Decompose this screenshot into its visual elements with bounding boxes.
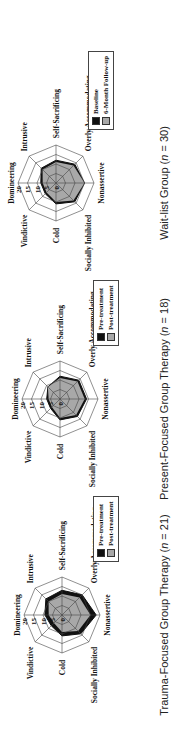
axis-label-self-sacrificing: Self-Sacrificing	[52, 89, 61, 138]
axis-label-cold: Cold	[52, 227, 61, 243]
tick-label: 5	[49, 618, 57, 622]
legend-item-baseline: Baseline	[91, 56, 101, 125]
tick-label: 5	[47, 402, 55, 406]
legend-item-followup: 6-Month Follow-up	[101, 56, 111, 125]
axis-label-intrusive: Intrusive	[24, 337, 33, 367]
caption-n: n	[158, 327, 170, 333]
axis-label-domineering: Domineering	[11, 378, 20, 420]
axis-label-domineering: Domineering	[7, 162, 16, 204]
axis-label-nonassertive: Nonassertive	[97, 162, 106, 204]
tick-label: 0	[53, 186, 61, 190]
axis-label-socially-inhibited: Socially Inhibited	[84, 214, 93, 271]
axis-label-cold: Cold	[56, 443, 65, 459]
panel-wait-list: 05101520DomineeringIntrusiveSelf-Sacrifi…	[0, 58, 190, 308]
tick-label: 5	[43, 186, 51, 190]
axis-label-nonassertive: Nonassertive	[101, 378, 110, 420]
panel-present-focused: 05101520DomineeringIntrusiveSelf-Sacrifi…	[0, 274, 190, 524]
panel-caption: Wait-list Group (n = 30)	[158, 58, 170, 308]
panel-caption: Present-Focused Group Therapy (n = 18)	[158, 274, 170, 524]
tick-label: 0	[59, 618, 67, 622]
swatch-gray-icon	[102, 117, 110, 125]
axis-label-socially-inhibited: Socially Inhibited	[90, 646, 99, 703]
legend-label: Baseline	[91, 89, 101, 114]
axis-label-cold: Cold	[58, 659, 67, 675]
legend-label: 6-Month Follow-up	[101, 56, 111, 114]
caption-text: Wait-list Group (	[158, 161, 170, 240]
caption-n-value: = 30)	[158, 126, 170, 154]
axis-label-self-sacrificing: Self-Sacrificing	[58, 521, 67, 570]
radar-chart: 05101520DomineeringIntrusiveSelf-Sacrifi…	[0, 58, 160, 308]
caption-text: Present-Focused Group Therapy (	[158, 333, 170, 500]
swatch-dark-icon	[97, 549, 105, 557]
panel-trauma-focused: 05101520DomineeringIntrusiveSelf-Sacrifi…	[0, 490, 190, 740]
panel-caption: Trauma-Focused Group Therapy (n = 21)	[158, 490, 170, 740]
swatch-dark-icon	[97, 333, 105, 341]
tick-label: 15	[28, 402, 36, 410]
radar-chart: 05101520DomineeringIntrusiveSelf-Sacrifi…	[0, 274, 160, 524]
legend: Baseline 6-Month Follow-up	[88, 51, 114, 130]
axis-label-intrusive: Intrusive	[26, 553, 35, 583]
tick-label: 10	[40, 618, 48, 626]
swatch-gray-icon	[107, 549, 115, 557]
axis-label-socially-inhibited: Socially Inhibited	[88, 430, 97, 487]
axis-label-vindictive: Vindictive	[20, 214, 29, 247]
swatch-dark-icon	[92, 117, 100, 125]
axis-label-domineering: Domineering	[13, 594, 22, 636]
caption-text: Trauma-Focused Group Therapy (	[158, 549, 170, 716]
axis-label-nonassertive: Nonassertive	[103, 594, 112, 636]
caption-n: n	[158, 155, 170, 161]
axis-label-vindictive: Vindictive	[24, 430, 33, 463]
axis-label-intrusive: Intrusive	[20, 121, 29, 151]
caption-n: n	[158, 543, 170, 549]
tick-label: 0	[57, 402, 65, 406]
swatch-gray-icon	[107, 333, 115, 341]
radar-chart: 05101520DomineeringIntrusiveSelf-Sacrifi…	[0, 490, 160, 740]
axis-label-vindictive: Vindictive	[26, 646, 35, 679]
tick-label: 10	[34, 186, 42, 194]
tick-label: 10	[38, 402, 46, 410]
figure: 05101520DomineeringIntrusiveSelf-Sacrifi…	[0, 0, 190, 750]
tick-label: 15	[30, 618, 38, 626]
axis-label-self-sacrificing: Self-Sacrificing	[56, 305, 65, 354]
tick-label: 15	[24, 186, 32, 194]
